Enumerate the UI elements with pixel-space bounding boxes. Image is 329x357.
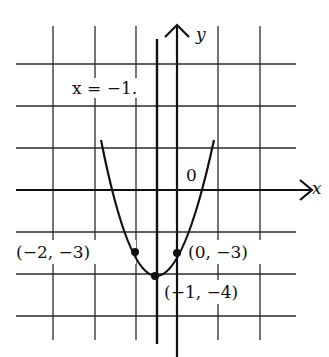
point-0-neg3 bbox=[173, 249, 181, 257]
axis-of-symmetry-label: x = −1. bbox=[72, 78, 137, 98]
origin-label: 0 bbox=[186, 165, 197, 185]
x-axis-label: x bbox=[312, 178, 322, 198]
point-label-vertex: (−1, −4) bbox=[164, 282, 238, 302]
parabola-diagram: x = −1. y x 0 (−2, −3) (0, −3) (−1, −4) bbox=[0, 0, 329, 357]
point-neg2-neg3 bbox=[131, 248, 139, 256]
point-vertex-neg1-neg4 bbox=[151, 272, 159, 280]
point-label-0-neg3: (0, −3) bbox=[188, 242, 248, 262]
point-label-neg2-neg3: (−2, −3) bbox=[16, 242, 90, 262]
y-axis-label: y bbox=[195, 24, 206, 44]
